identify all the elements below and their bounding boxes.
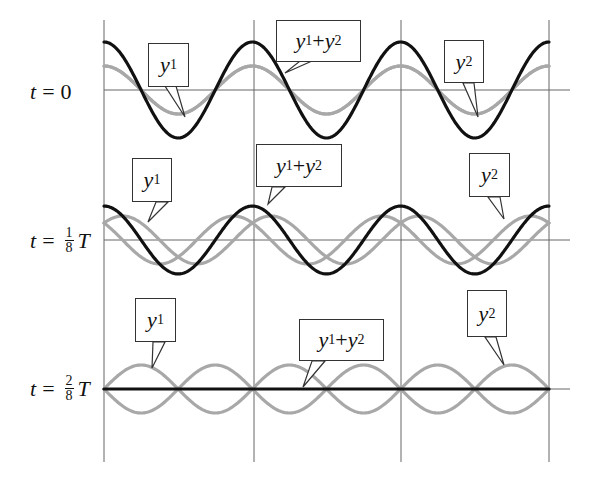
- subscript: 2: [357, 332, 364, 348]
- y-symbol: y: [296, 28, 306, 54]
- callout-y2: y2: [469, 153, 510, 197]
- y-symbol: y: [147, 307, 157, 333]
- callout-y1-plus-y2: y1 + y2: [276, 20, 361, 62]
- row-label-t0: t = 0: [30, 79, 72, 105]
- callout-y2: y2: [467, 290, 507, 337]
- callout-y1-plus-y2: y1 + y2: [299, 319, 384, 361]
- fraction-denominator: 8: [66, 389, 73, 403]
- callout-pointer: [148, 202, 168, 222]
- subscript: 2: [315, 158, 322, 174]
- fraction: 1 8: [65, 226, 74, 255]
- callout-pointer: [268, 187, 285, 204]
- y-symbol: y: [479, 301, 489, 327]
- callout-y1: y1: [148, 43, 189, 87]
- equals-sign: =: [42, 228, 54, 254]
- fraction: 2 8: [65, 374, 74, 403]
- period-symbol: T: [78, 376, 90, 402]
- subscript: 2: [334, 33, 341, 49]
- callout-y2: y2: [444, 40, 484, 83]
- plus-sign: +: [312, 28, 324, 54]
- subscript: 1: [328, 332, 335, 348]
- fraction-numerator: 2: [65, 374, 74, 389]
- y-symbol: y: [325, 28, 335, 54]
- y-symbol: y: [144, 167, 154, 193]
- y-symbol: y: [160, 52, 170, 78]
- y-symbol: y: [305, 153, 315, 179]
- callout-y1-plus-y2: y1 + y2: [256, 144, 342, 187]
- standing-wave-diagram: t = 0 t = 1 8 T t = 2 8 T y1 y1 + y2 y2 …: [0, 0, 589, 482]
- equals-sign: =: [42, 79, 54, 105]
- t-symbol: t: [30, 376, 36, 402]
- equals-sign: =: [42, 376, 54, 402]
- plus-sign: +: [293, 153, 305, 179]
- subscript: 1: [170, 57, 177, 73]
- subscript: 2: [488, 306, 495, 322]
- plus-sign: +: [335, 327, 347, 353]
- callout-y1: y1: [132, 158, 172, 202]
- subscript: 2: [491, 167, 498, 183]
- fraction-numerator: 1: [65, 226, 74, 241]
- fraction-denominator: 8: [66, 241, 73, 255]
- y-symbol: y: [348, 327, 358, 353]
- y-symbol: y: [276, 153, 286, 179]
- y-symbol: y: [319, 327, 329, 353]
- t-symbol: t: [30, 79, 36, 105]
- t-symbol: t: [30, 228, 36, 254]
- callout-pointer: [152, 342, 165, 368]
- callout-y1: y1: [135, 298, 176, 342]
- subscript: 2: [465, 54, 472, 70]
- subscript: 1: [157, 312, 164, 328]
- row-label-t2-8: t = 2 8 T: [30, 374, 90, 403]
- row-label-t1-8: t = 1 8 T: [30, 226, 90, 255]
- callout-pointer: [485, 337, 504, 365]
- callout-pointer: [488, 197, 504, 219]
- y-symbol: y: [456, 49, 466, 75]
- time-value: 0: [61, 79, 72, 105]
- period-symbol: T: [78, 228, 90, 254]
- subscript: 1: [305, 33, 312, 49]
- callout-pointer: [285, 61, 312, 73]
- subscript: 1: [286, 158, 293, 174]
- subscript: 1: [153, 172, 160, 188]
- y-symbol: y: [481, 162, 491, 188]
